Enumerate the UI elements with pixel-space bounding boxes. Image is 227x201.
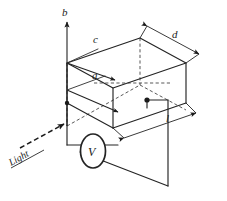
dimension-label-d: d <box>172 28 178 40</box>
axis-a: a <box>67 69 118 112</box>
left-terminal-dot <box>65 101 69 105</box>
physics-figure: b c a d l <box>0 0 227 201</box>
axis-label-c: c <box>93 33 98 45</box>
dimension-l: l <box>113 103 196 138</box>
light-label: Light <box>6 148 31 168</box>
voltmeter: V <box>81 134 106 168</box>
light-ray: Light <box>6 124 64 168</box>
axis-c: c <box>67 33 115 80</box>
axis-label-b: b <box>62 6 68 18</box>
dimension-d: d <box>140 26 199 63</box>
figure-canvas: b c a d l <box>0 0 227 201</box>
right-terminal-dot <box>144 97 149 102</box>
